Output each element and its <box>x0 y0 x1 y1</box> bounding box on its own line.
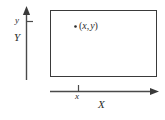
x-axis-label: X <box>98 99 105 110</box>
x-tick-label: x <box>75 92 79 101</box>
coordinate-diagram: y Y x X (x, y) <box>0 0 165 120</box>
dot-marker <box>74 25 77 28</box>
domain-rectangle <box>51 11 157 77</box>
y-tick-label: y <box>15 16 19 25</box>
x-axis-arrowhead <box>150 88 159 95</box>
y-axis-arrowhead <box>23 6 30 15</box>
y-axis-label: Y <box>14 32 20 43</box>
point-coordinate-label: (x, y) <box>79 21 98 31</box>
close-paren: ) <box>95 20 98 31</box>
coordinate-comma: , <box>87 20 90 31</box>
diagram-canvas <box>0 0 165 120</box>
